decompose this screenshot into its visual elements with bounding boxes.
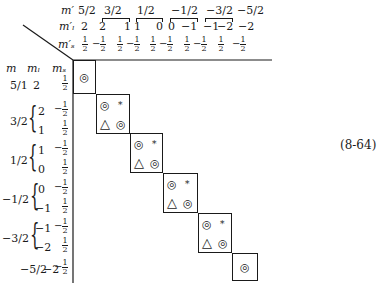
row-label-ml: 1	[38, 144, 45, 157]
row-label-ms: 12	[62, 75, 68, 92]
double-circle-icon: ◎	[100, 100, 110, 111]
brace: {	[28, 102, 38, 132]
double-circle-icon: ◎	[183, 198, 193, 209]
row-label-ml: 0	[38, 183, 45, 196]
row-label-ml: 0	[38, 163, 45, 176]
row-label-ms: 12	[62, 198, 68, 215]
row-label-ms: 12	[62, 140, 68, 157]
row-label-ml: 2	[33, 79, 40, 92]
asterisk-icon: *	[220, 219, 225, 230]
row-label-ms: 12	[62, 120, 68, 137]
row-label-m: 1/2	[10, 154, 28, 167]
row-label-ml: −1	[35, 222, 51, 235]
row-label-ml: 1	[38, 124, 45, 137]
row-label-m: 3/2	[10, 115, 28, 128]
row-label-m: −3/2	[2, 232, 29, 245]
row-label-ms: 12	[62, 179, 68, 196]
row-label-m: −1/2	[2, 193, 29, 206]
triangle-icon: △	[134, 157, 144, 168]
triangle-icon: △	[167, 197, 177, 208]
asterisk-icon: *	[185, 179, 190, 190]
row-header-ml: mₗ	[27, 62, 40, 75]
row-label-ms: 12	[62, 218, 68, 235]
equation-number: (8-64)	[340, 138, 376, 152]
asterisk-icon: *	[152, 139, 157, 150]
double-circle-icon: ◎	[202, 219, 212, 230]
triangle-icon: △	[202, 237, 212, 248]
row-label-ms: 12	[62, 159, 68, 176]
triangle-icon: △	[100, 118, 110, 129]
double-circle-icon: ◎	[218, 238, 228, 249]
double-circle-icon: ◎	[134, 139, 144, 150]
row-label-ml: −2	[35, 241, 51, 254]
asterisk-icon: *	[118, 100, 123, 111]
double-circle-icon: ◎	[167, 179, 177, 190]
row-label-m: 5/1	[10, 79, 28, 92]
row-label-ml: −1	[35, 202, 51, 215]
row-label-ms: 12	[62, 237, 68, 254]
row-label-ms: 12	[62, 259, 68, 276]
double-circle-icon: ◎	[80, 72, 90, 83]
double-circle-icon: ◎	[240, 262, 250, 273]
row-label-ml: 2	[38, 105, 45, 118]
double-circle-icon: ◎	[150, 158, 160, 169]
row-header-m: m	[6, 62, 16, 75]
brace: {	[28, 141, 38, 171]
diagonal-rule	[23, 25, 73, 60]
double-circle-icon: ◎	[116, 119, 126, 130]
row-label-ms: 12	[62, 101, 68, 118]
